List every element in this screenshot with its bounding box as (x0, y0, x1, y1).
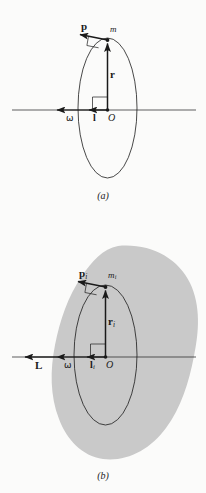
figure-canvas: p m r l ω O (a) pi mi ri li ω L O (b) (0, 0, 206, 493)
right-angle-mark-origin-a (93, 97, 108, 110)
particle-dot-b (104, 285, 108, 289)
label-momentum-a: p (81, 21, 87, 32)
caption-panel-b: (b) (0, 471, 206, 481)
panel-b-artwork (12, 246, 198, 460)
label-origin-b: O (106, 360, 113, 370)
label-angular-velocity-b: ω (64, 361, 72, 370)
caption-panel-a: (a) (0, 191, 206, 201)
rigid-body-blob (52, 246, 198, 460)
momentum-vector-a (80, 35, 108, 41)
label-radius-b: ri (108, 316, 115, 328)
label-angular-momentum-b-subscript: i (93, 363, 95, 370)
label-origin-a: O (108, 113, 115, 123)
label-angular-momentum-b: li (90, 360, 95, 371)
label-angular-momentum-a: l (93, 113, 96, 123)
label-momentum-b: pi (79, 268, 87, 280)
diagram-artwork (0, 0, 206, 493)
panel-a-artwork (12, 35, 196, 179)
particle-dot-a (106, 38, 110, 42)
label-mass-b-symbol: m (108, 270, 115, 280)
label-momentum-b-subscript: i (85, 272, 87, 281)
label-mass-b: mi (108, 271, 116, 280)
label-mass-a: m (110, 25, 117, 34)
label-angular-velocity-a: ω (66, 114, 74, 123)
label-radius-a: r (110, 69, 115, 80)
label-radius-b-subscript: i (113, 320, 115, 329)
label-total-angular-momentum-b: L (35, 360, 42, 371)
label-mass-b-subscript: i (115, 274, 117, 280)
